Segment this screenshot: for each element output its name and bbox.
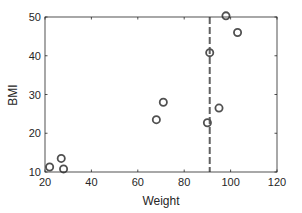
- scatter-point: [222, 12, 229, 19]
- axes: 204060801001201020304050: [29, 11, 286, 188]
- axes-box: [45, 17, 277, 172]
- scatter-point: [46, 163, 53, 170]
- scatter-point: [234, 29, 241, 36]
- scatter-point: [153, 116, 160, 123]
- data-points: [46, 12, 241, 172]
- x-tick-label: 120: [268, 176, 286, 188]
- x-tick-label: 80: [178, 176, 190, 188]
- x-axis-label: Weight: [142, 194, 180, 208]
- scatter-point: [215, 104, 222, 111]
- scatter-point: [60, 165, 67, 172]
- scatter-point: [58, 155, 65, 162]
- scatter-chart: 204060801001201020304050 Weight BMI: [0, 0, 302, 213]
- y-tick-label: 50: [29, 11, 41, 23]
- x-tick-label: 60: [132, 176, 144, 188]
- y-tick-label: 40: [29, 50, 41, 62]
- scatter-point: [160, 99, 167, 106]
- x-tick-label: 40: [85, 176, 97, 188]
- y-tick-label: 30: [29, 89, 41, 101]
- y-axis-label: BMI: [6, 84, 20, 105]
- y-tick-label: 10: [29, 166, 41, 178]
- x-tick-label: 100: [221, 176, 239, 188]
- y-tick-label: 20: [29, 127, 41, 139]
